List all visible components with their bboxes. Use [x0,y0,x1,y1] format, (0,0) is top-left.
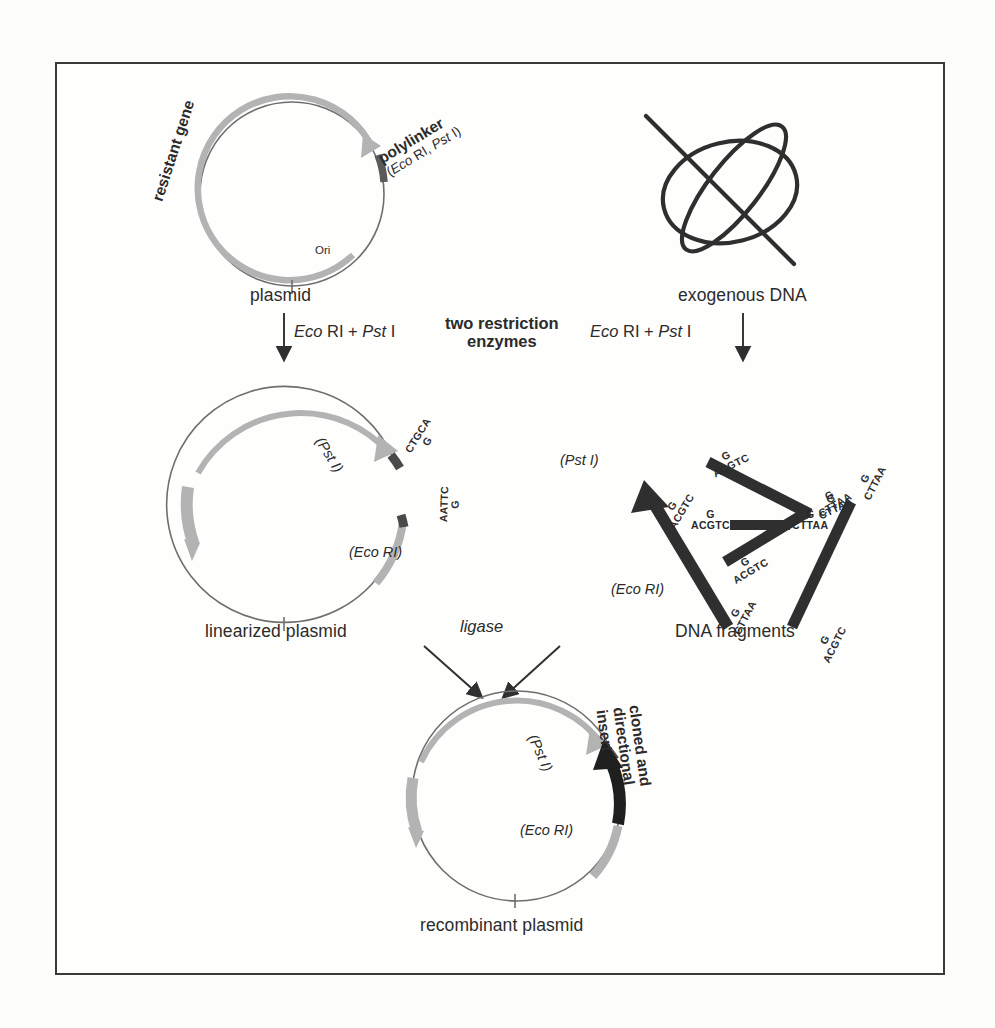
enzyme-left-eco: Eco [294,322,322,340]
fragments-pst-site-label: (Pst I) [560,452,599,468]
ligase-label: ligase [460,617,503,635]
recombinant-gene-band-right [593,826,618,876]
linearized-eco-sticky-end: AATTC G [438,486,461,523]
enzymes-left-label: Eco RI + Pst I [294,322,395,340]
eco-cut-stub [401,515,404,527]
dna-fragments-caption: DNA fragments [675,622,795,642]
linearized-plasmid-caption: linearized plasmid [205,622,347,642]
linearized-gene-arc-top [198,413,390,473]
fragment-2-eco-bottom: CTTAA [792,520,828,531]
fragments-eco-site-label: (Eco RI) [611,581,664,597]
fragments-pst-plain: I) [586,452,599,468]
recombinant-eco-plain: RI) [550,822,573,838]
fragment-2-pst-end: G ACGTC [691,509,730,530]
enzyme-right-eco: Eco [590,322,618,340]
recombinant-backbone-circle [412,691,622,901]
enzyme-right-plain1: RI + [618,322,658,340]
plasmid-diagram-svg [167,84,467,314]
plasmid-caption: plasmid [250,286,311,306]
eco-sticky-bottom: G [449,500,460,509]
exogenous-dna-svg [622,92,872,302]
linearized-eco-site-label: (Eco RI) [349,544,402,560]
ori-label-plasmid: Ori [315,244,330,257]
resistant-gene-arc [198,96,372,280]
two-restriction-enzymes-line2: enzymes [445,332,559,350]
recombinant-eco-italic: Eco [525,822,550,838]
fragments-eco-italic: Eco [616,581,641,597]
enzyme-right-plain2: I [682,322,691,340]
linearized-gene-band-left [187,487,194,545]
recombinant-plasmid-caption: recombinant plasmid [420,916,583,936]
pst-cut-stub [391,455,400,468]
fragment-2-pst-bottom: ACGTC [691,520,730,531]
enzyme-left-pst: Pst [362,322,386,340]
figure-frame: Ori resistant gene polylinker (Eco RI, P… [55,62,945,975]
enzymes-right-label: Eco RI + Pst I [590,322,691,340]
enzyme-left-plain1: RI + [322,322,362,340]
fragments-pst-italic: Pst [565,452,586,468]
two-restriction-enzymes-line1: two restriction [445,314,559,332]
linearized-eco-italic: Eco [354,544,379,560]
recombinant-eco-site-label: (Eco RI) [520,822,573,838]
linearized-backbone-arc [167,386,402,622]
fragment-4-pst-end: G ACGTC [811,620,848,664]
enzyme-left-plain2: I [386,322,395,340]
recombinant-gene-band-left [411,778,417,832]
exogenous-dna-caption: exogenous DNA [678,286,807,306]
fragments-eco-plain: RI) [641,581,664,597]
enzyme-right-pst: Pst [658,322,682,340]
linearized-eco-plain: RI) [379,544,402,560]
two-restriction-enzymes-label: two restriction enzymes [445,314,559,351]
linearized-plasmid-svg [162,369,462,639]
cloned-insert-label: cloned and directional insert [593,704,653,792]
